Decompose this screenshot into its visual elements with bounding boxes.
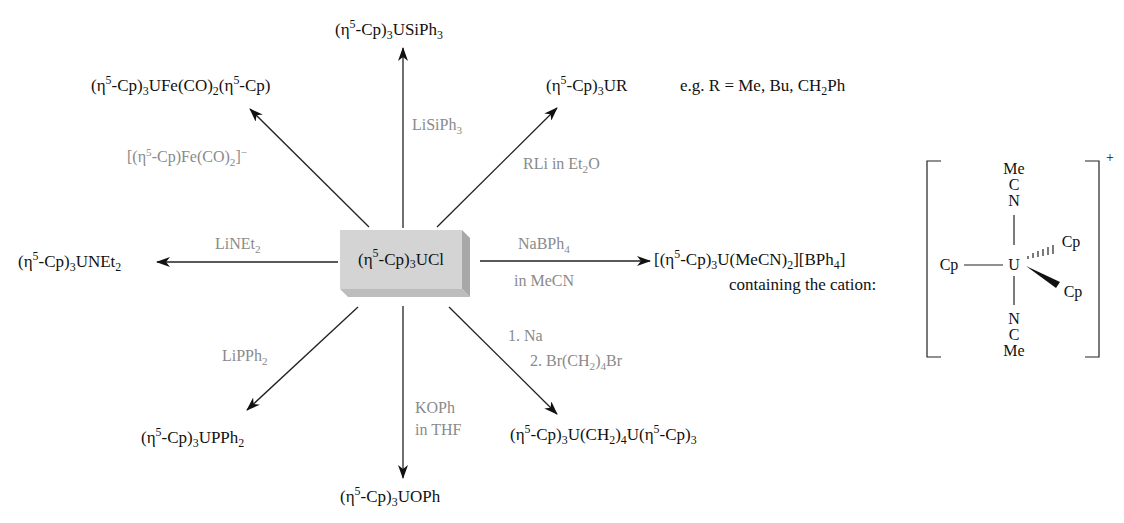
subscript: 2	[115, 260, 121, 274]
product-cation-salt: [(η5-Cp)3U(MeCN)2][BPh4]	[654, 250, 845, 270]
atom-cp-left: Cp	[936, 257, 962, 273]
hashed-bond	[1028, 245, 1053, 259]
formula-text: -Cp)	[39, 252, 70, 271]
atom-n-bottom: N	[1002, 311, 1026, 327]
formula-text: e.g. R = Me, Bu, CH	[680, 76, 821, 95]
product-unet2: (η5-Cp)3UNEt2	[18, 252, 121, 272]
formula-text: -Cp)	[680, 250, 711, 269]
subscript: 2	[609, 433, 615, 447]
atom-me-top: Me	[1002, 161, 1026, 177]
subscript: 2	[238, 436, 244, 450]
formula-text: [(η	[654, 250, 674, 269]
superscript: 5	[674, 247, 680, 261]
formula-text: UFe(CO)	[149, 76, 213, 95]
reagent-step2: 2. Br(CH2)4Br	[530, 351, 622, 370]
formula-text: O	[588, 155, 600, 172]
label-text: (η	[358, 250, 373, 270]
label-text: -Cp)	[379, 250, 410, 270]
formula-text: [(η	[127, 148, 146, 165]
formula-text: LiSiPh	[412, 116, 456, 133]
superscript: 5	[525, 422, 531, 436]
superscript: 5	[156, 425, 162, 439]
subscript: 2	[821, 84, 827, 98]
subscript: 2	[583, 163, 589, 175]
formula-text: -Cp)	[531, 425, 562, 444]
subscript: 4	[834, 258, 840, 272]
formula-text: ][BPh	[793, 250, 834, 269]
product-ufe: (η5-Cp)3UFe(CO)2(η5-Cp)	[91, 76, 271, 96]
formula-text: LiNEt	[215, 235, 255, 252]
subscript: 4	[600, 360, 606, 372]
formula-text: -Cp)	[112, 76, 143, 95]
atom-n-top: N	[1002, 193, 1026, 209]
formula-text: -Cp)	[660, 425, 691, 444]
formula-text: )	[615, 425, 621, 444]
superscript: 5	[106, 73, 112, 87]
formula-text: 2. Br(CH	[530, 352, 590, 369]
formula-text: (η	[335, 20, 350, 39]
product-ur: (η5-Cp)3UR	[546, 76, 627, 96]
product-dimer: (η5-Cp)3U(CH2)4U(η5-Cp)3	[510, 425, 697, 445]
reagent-fe-anion: [(η5-Cp)Fe(CO)2]−	[127, 147, 247, 166]
superscript: 5	[654, 422, 660, 436]
reagent-linet2: LiNEt2	[215, 234, 261, 253]
subscript: 2	[262, 355, 268, 367]
reagent-in-thf: in THF	[415, 420, 461, 439]
formula-text: (η	[91, 76, 106, 95]
superscript: 5	[561, 73, 567, 87]
formula-text: ]	[840, 250, 846, 269]
subscript: 3	[437, 28, 443, 42]
formula-text: USiPh	[393, 20, 437, 39]
superscript: 5	[146, 146, 152, 158]
subscript: 2	[255, 243, 261, 255]
product-upph2: (η5-Cp)3UPPh2	[141, 428, 244, 448]
formula-text: -Cp)	[162, 428, 193, 447]
formula-text: UOPh	[398, 487, 441, 506]
cation-charge: +	[1106, 150, 1114, 166]
superscript: 5	[233, 73, 239, 87]
subscript: 3	[193, 436, 199, 450]
formula-text: Ph	[827, 76, 845, 95]
superscript: 5	[33, 249, 39, 263]
subscript: 3	[562, 433, 568, 447]
formula-text: -Cp)	[567, 76, 598, 95]
reagent-step1: 1. Na	[508, 326, 543, 345]
atom-me-bottom: Me	[1002, 343, 1026, 359]
formula-text: -Cp)	[356, 20, 387, 39]
formula-text: (η	[340, 487, 355, 506]
atom-uranium: U	[1004, 257, 1024, 273]
reagent-koph: KOPh	[415, 398, 455, 417]
formula-text: -Cp)Fe(CO)	[152, 148, 230, 165]
formula-text: RLi in Et	[523, 155, 583, 172]
product-uoph: (η5-Cp)3UOPh	[340, 487, 440, 507]
subscript: 3	[70, 260, 76, 274]
superscript: 5	[355, 484, 361, 498]
formula-text: (η	[219, 76, 234, 95]
superscript: 5	[350, 17, 356, 31]
reagent-rli: RLi in Et2O	[523, 154, 600, 173]
subscript: 2	[213, 84, 219, 98]
subscript: 3	[143, 84, 149, 98]
atom-c-top: C	[1002, 177, 1026, 193]
formula-text: Br	[606, 352, 622, 369]
wedge-bond	[1026, 266, 1060, 288]
atom-cp-hashed: Cp	[1058, 234, 1084, 250]
formula-text: UR	[604, 76, 628, 95]
product-usiph3: (η5-Cp)3USiPh3	[335, 20, 443, 40]
formula-text: (η	[141, 428, 156, 447]
product-ur-note: e.g. R = Me, Bu, CH2Ph	[680, 76, 845, 96]
formula-text: U(η	[627, 425, 654, 444]
subscript: 4	[564, 243, 570, 255]
formula-text: UPPh	[199, 428, 239, 447]
formula-text: LiPPh	[222, 347, 262, 364]
subscript: 3	[456, 124, 462, 136]
formula-text: -Cp)	[239, 76, 270, 95]
reagent-lipph2: LiPPh2	[222, 346, 268, 365]
subscript: 2	[230, 156, 236, 168]
atom-cp-wedge: Cp	[1060, 284, 1086, 300]
label-text: UCl	[416, 250, 444, 270]
subscript: 2	[590, 360, 596, 372]
formula-text: (η	[546, 76, 561, 95]
cation-note: containing the cation:	[729, 275, 876, 295]
formula-text: (η	[18, 252, 33, 271]
